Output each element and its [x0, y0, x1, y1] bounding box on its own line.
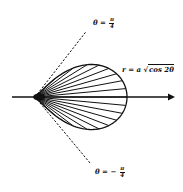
- dashed-line-theta-minus-pi-over-4: [35, 97, 91, 164]
- curve-label-radicand: cos 2θ: [148, 64, 174, 74]
- axis-arrowhead-icon: [168, 94, 175, 101]
- lower-label-fraction: π 4: [120, 166, 125, 178]
- lemniscate-figure: [0, 0, 183, 192]
- radial-ray: [35, 68, 109, 97]
- curve-equation-label: r = a √cos 2θ: [122, 66, 174, 73]
- lower-label-denominator: 4: [120, 173, 124, 179]
- origin-point: [33, 94, 45, 101]
- lower-line-label: θ = − π 4: [95, 166, 125, 178]
- upper-label-lhs: θ =: [93, 18, 106, 27]
- upper-label-fraction: π 4: [109, 17, 114, 29]
- upper-line-label: θ = π 4: [93, 17, 114, 29]
- curve-label-lhs: r = a: [122, 65, 141, 74]
- radial-ray: [35, 97, 73, 126]
- upper-label-denominator: 4: [110, 24, 114, 30]
- lower-label-lhs: θ = −: [95, 167, 116, 176]
- radial-ray: [35, 97, 109, 126]
- lemniscate-diagram: θ = π 4 r = a √cos 2θ θ = − π 4: [0, 0, 183, 192]
